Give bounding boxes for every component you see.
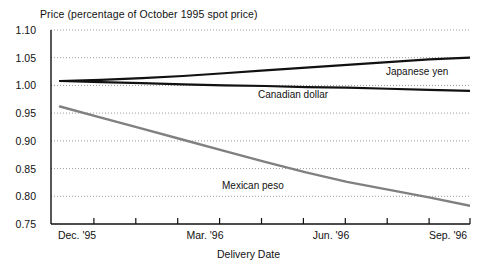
series-label-japanese-yen: Japanese yen: [386, 66, 448, 77]
chart-figure: Price (percentage of October 1995 spot p…: [0, 0, 497, 269]
x-axis-title: Delivery Date: [0, 248, 497, 260]
x-tick-label: Sep. '96: [429, 229, 467, 241]
series-label-mexican-peso: Mexican peso: [222, 180, 284, 191]
x-tick-label: Dec. '95: [58, 229, 96, 241]
x-axis-ticks: [94, 218, 470, 224]
x-tick-label: Jun. '96: [313, 229, 349, 241]
axis-lines: [51, 30, 470, 224]
grid-lines: [51, 30, 470, 196]
x-tick-label: Mar. '96: [186, 229, 223, 241]
series-label-canadian-dollar: Canadian dollar: [258, 89, 328, 100]
